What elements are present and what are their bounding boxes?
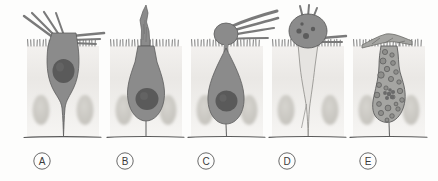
panel-label-c-text: C — [202, 156, 209, 167]
figure-canvas: A B C D E — [0, 0, 438, 181]
cell-nucleus-b — [136, 88, 159, 110]
apical-bulb-c — [214, 23, 238, 45]
panel-label-b: B — [117, 153, 133, 169]
epithelial-stages-figure: A B C D E — [0, 0, 438, 181]
panel-label-e-text: E — [365, 156, 372, 167]
panel-label-e: E — [360, 153, 376, 169]
panel-label-a-text: A — [39, 156, 46, 167]
panel-label-c: C — [198, 153, 214, 169]
basal-stalk-c — [226, 124, 227, 136]
nucleolus-c — [219, 94, 226, 102]
panel-label-b-text: B — [122, 156, 129, 167]
panel-label-a: A — [34, 153, 50, 169]
condensed-apical-head-d — [289, 14, 327, 48]
panel-label-d-text: D — [283, 156, 290, 167]
cell-nucleus-a — [53, 59, 75, 83]
basement-membrane — [24, 137, 427, 138]
nucleolus-b — [140, 92, 148, 100]
cell-nucleus-c — [216, 91, 238, 112]
basal-stalk-e — [389, 122, 390, 136]
panel-label-d: D — [279, 153, 295, 169]
panel-labels: A B C D E — [34, 153, 376, 169]
nucleolus-a — [56, 63, 64, 72]
